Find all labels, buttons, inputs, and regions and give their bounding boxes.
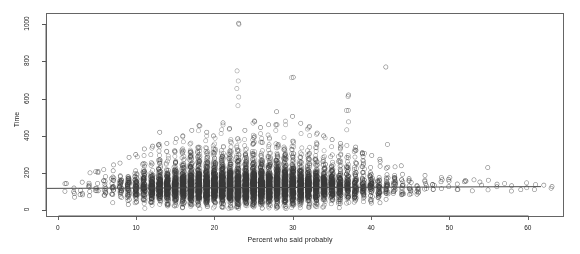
y-tick-label: 200 (23, 163, 30, 183)
y-tick-label: 1000 (23, 14, 30, 34)
x-axis-title: Percent who said probably (0, 236, 580, 243)
scatter-plot-figure: Percent who said probably Time 010203040… (0, 0, 580, 254)
x-tick-label: 40 (367, 224, 374, 231)
y-tick-label: 400 (23, 125, 30, 145)
x-tick-label: 10 (132, 224, 139, 231)
scatter-plot-canvas (0, 0, 580, 254)
x-tick-label: 50 (446, 224, 453, 231)
y-tick-label: 0 (23, 200, 30, 220)
x-tick-label: 0 (56, 224, 60, 231)
x-tick-label: 20 (211, 224, 218, 231)
y-tick-label: 600 (23, 88, 30, 108)
x-tick-label: 30 (289, 224, 296, 231)
x-tick-label: 60 (524, 224, 531, 231)
y-tick-label: 800 (23, 51, 30, 71)
y-axis-title: Time (13, 90, 20, 150)
